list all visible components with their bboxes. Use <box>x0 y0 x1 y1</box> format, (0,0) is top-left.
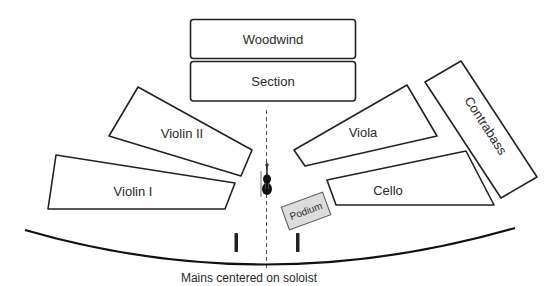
stage-edge-curve <box>25 228 515 265</box>
main-mic-right-icon <box>296 233 300 252</box>
viola-label: Viola <box>349 125 378 140</box>
woodwind-label: Woodwind <box>243 32 303 47</box>
section-label: Section <box>251 74 294 89</box>
violin-icon <box>261 163 272 197</box>
woodwind-section-row2: Section <box>191 62 356 102</box>
cello-shape <box>327 151 494 205</box>
violin-2-label: Violin II <box>161 126 203 141</box>
diagram-caption: Mains centered on soloist <box>181 271 318 285</box>
podium: Podium <box>281 192 331 230</box>
cello-label: Cello <box>373 183 403 198</box>
orchestra-seating-diagram: Woodwind Section Violin II Violin I Viol… <box>0 0 557 286</box>
main-mic-left-icon <box>235 233 239 252</box>
cello-section: Cello <box>327 151 494 205</box>
woodwind-section: Woodwind <box>191 20 356 59</box>
violin-1-label: Violin I <box>114 184 153 199</box>
